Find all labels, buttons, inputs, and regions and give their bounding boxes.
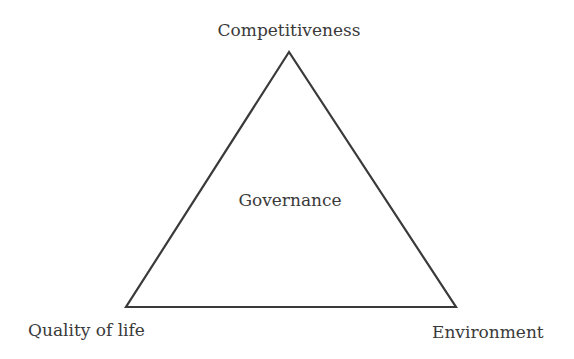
triangle-shape [0, 0, 574, 359]
vertex-label-competitiveness: Competitiveness [214, 22, 364, 39]
vertex-label-environment: Environment [432, 324, 544, 341]
vertex-label-quality-of-life: Quality of life [28, 322, 145, 339]
governance-triangle-diagram: Competitiveness Governance Quality of li… [0, 0, 574, 359]
triangle-outline [126, 52, 456, 307]
center-label-governance: Governance [225, 192, 355, 209]
